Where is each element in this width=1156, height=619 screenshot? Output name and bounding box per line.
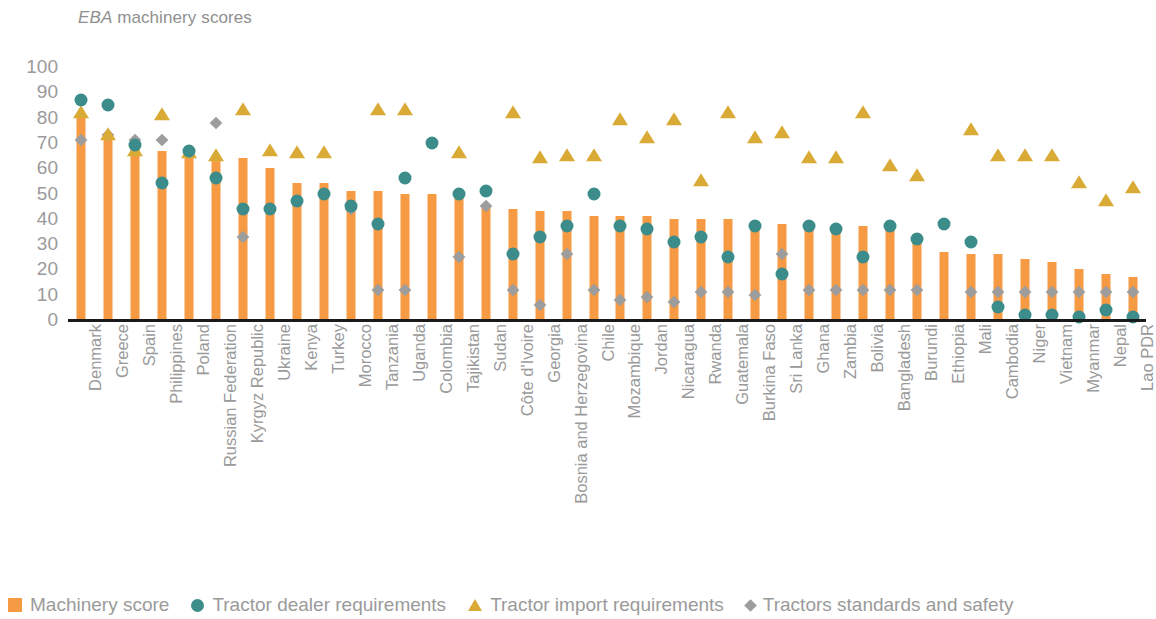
chart-column: [1011, 67, 1038, 320]
tractor-import-marker: [586, 148, 602, 161]
chart-column: [688, 67, 715, 320]
y-tick-label: 50: [37, 184, 58, 203]
y-tick-label: 70: [37, 133, 58, 152]
triangle-icon: [468, 599, 482, 611]
y-tick-label: 60: [37, 158, 58, 177]
chart-column: [68, 67, 95, 320]
chart-column: [1092, 67, 1119, 320]
chart-column: [957, 67, 984, 320]
chart-column: [499, 67, 526, 320]
machinery-score-bar: [373, 191, 382, 320]
tractor-import-marker: [451, 145, 467, 158]
tractor-dealer-marker: [1099, 303, 1112, 316]
chart-column: [715, 67, 742, 320]
tractor-dealer-marker: [264, 202, 277, 215]
chart-column: [149, 67, 176, 320]
tractor-import-marker: [639, 130, 655, 143]
x-tick-label: Ethiopia: [950, 324, 967, 384]
machinery-score-bar: [724, 219, 733, 320]
tractor-dealer-marker: [560, 220, 573, 233]
legend-item-tractor_import[interactable]: Tractor import requirements: [468, 594, 724, 616]
tractor-dealer-marker: [452, 187, 465, 200]
chart-column: [930, 67, 957, 320]
chart-column: [903, 67, 930, 320]
x-tick-label: Burkina Faso: [761, 324, 778, 421]
y-tick-label: 40: [37, 209, 58, 228]
x-tick-label: Greece: [114, 324, 131, 378]
tractor-dealer-marker: [937, 217, 950, 230]
x-tick-label: Ghana: [815, 324, 832, 374]
x-axis-line: [68, 319, 1146, 322]
circle-icon: [191, 599, 204, 612]
legend-item-tractor_standards[interactable]: Tractors standards and safety: [746, 594, 1014, 616]
machinery-score-bar: [427, 194, 436, 321]
tractor-dealer-marker: [210, 172, 223, 185]
y-tick-label: 10: [37, 285, 58, 304]
x-tick-label: Sudan: [492, 324, 509, 372]
x-tick-label: Turkey: [330, 324, 347, 374]
chart-column: [257, 67, 284, 320]
chart-column: [203, 67, 230, 320]
tractor-dealer-marker: [75, 93, 88, 106]
chart-column: [1119, 67, 1146, 320]
legend-label: Tractor dealer requirements: [212, 594, 446, 616]
chart-column: [769, 67, 796, 320]
x-tick-label: Bangladesh: [896, 324, 913, 411]
tractor-import-marker: [505, 105, 521, 118]
tractor-import-marker: [1071, 176, 1087, 189]
x-tick-label: Rwanda: [707, 324, 724, 385]
y-tick-label: 0: [47, 310, 58, 329]
chart-column: [661, 67, 688, 320]
x-tick-label: Tanzania: [384, 324, 401, 390]
tractor-import-marker: [1125, 181, 1141, 194]
x-tick-label: Tajikistan: [465, 324, 482, 392]
chart-column: [823, 67, 850, 320]
chart-column: [850, 67, 877, 320]
tractor-import-marker: [316, 145, 332, 158]
x-tick-label: Poland: [195, 324, 212, 375]
chart-column: [984, 67, 1011, 320]
y-tick-label: 80: [37, 108, 58, 127]
legend-label: Machinery score: [30, 594, 169, 616]
tractor-dealer-marker: [506, 248, 519, 261]
tractor-import-marker: [370, 102, 386, 115]
tractor-standards-marker: [156, 134, 169, 147]
chart-column: [391, 67, 418, 320]
tractor-dealer-marker: [344, 200, 357, 213]
tractor-import-marker: [397, 102, 413, 115]
machinery-score-bar: [481, 206, 490, 320]
tractor-import-marker: [235, 102, 251, 115]
machinery-score-bar: [131, 145, 140, 320]
chart-column: [284, 67, 311, 320]
x-tick-label: Georgia: [546, 324, 563, 383]
tractor-import-marker: [1098, 193, 1114, 206]
tractor-dealer-marker: [425, 136, 438, 149]
tractor-dealer-marker: [641, 222, 654, 235]
tractor-import-marker: [855, 105, 871, 118]
tractor-dealer-marker: [587, 187, 600, 200]
x-tick-label: Mali: [977, 324, 994, 354]
machinery-score-bar: [589, 216, 598, 320]
tractor-import-marker: [882, 158, 898, 171]
chart-column: [418, 67, 445, 320]
tractor-dealer-marker: [991, 301, 1004, 314]
tractor-dealer-marker: [237, 202, 250, 215]
chart-column: [742, 67, 769, 320]
chart-title: EBA machinery scores: [78, 8, 252, 28]
tractor-import-marker: [262, 143, 278, 156]
legend-item-tractor_dealer[interactable]: Tractor dealer requirements: [191, 594, 446, 616]
y-tick-label: 20: [37, 259, 58, 278]
tractor-dealer-marker: [857, 250, 870, 263]
machinery-score-bar: [400, 194, 409, 321]
machinery-score-bar: [832, 226, 841, 320]
chart-column: [95, 67, 122, 320]
tractor-import-marker: [1017, 148, 1033, 161]
tractor-import-marker: [720, 105, 736, 118]
plot-area: [68, 67, 1146, 320]
tractor-import-marker: [801, 150, 817, 163]
tractor-dealer-marker: [695, 230, 708, 243]
chart-column: [338, 67, 365, 320]
x-tick-label: Vietnam: [1058, 324, 1075, 384]
legend-item-machinery_score[interactable]: Machinery score: [8, 594, 169, 616]
